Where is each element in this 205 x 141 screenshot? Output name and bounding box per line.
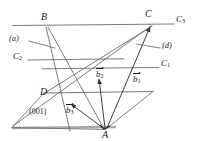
plane-label-c2-sub: 2 — [19, 55, 22, 61]
vector-label-b2-letter: b — [96, 70, 101, 79]
plane-label-c3: C3 — [176, 15, 185, 24]
leader-a — [29, 41, 55, 48]
vector-arrow-accent-b1 — [133, 73, 140, 74]
edge-base-right-lower — [106, 92, 153, 130]
vertex-label-B: B — [41, 12, 47, 22]
plane-label-c2: C2 — [13, 52, 22, 61]
vertex-label-D: D — [40, 87, 47, 97]
vector-label-b1-letter: b — [133, 75, 138, 84]
leader-d — [136, 44, 160, 48]
direction-label-d: (d) — [162, 41, 172, 50]
direction-label-a: (a) — [9, 34, 19, 43]
vector-b3-arrow — [71, 104, 103, 128]
vector-label-b3: b3 — [66, 106, 74, 115]
plane-label-c1-sub: 1 — [167, 62, 170, 68]
vertex-label-A: A — [102, 130, 108, 140]
figure-container: B C D A C3 C1 C2 (a) (d) (001) b1 b2 b3 — [0, 0, 205, 141]
plane-label-c1: C1 — [161, 59, 170, 68]
vector-arrow-accent-b3 — [66, 104, 73, 105]
vector-arrow-accent-b2 — [96, 68, 103, 69]
plane-line-c2 — [28, 59, 124, 60]
vector-label-b1: b1 — [133, 75, 141, 84]
vector-label-b2: b2 — [96, 70, 104, 79]
vector-label-b3-letter: b — [66, 106, 71, 115]
vertex-label-C: C — [145, 9, 152, 19]
plane-label-c3-sub: 3 — [182, 18, 185, 24]
plane-line-c3 — [13, 24, 174, 26]
miller-index-label: (001) — [29, 108, 46, 116]
